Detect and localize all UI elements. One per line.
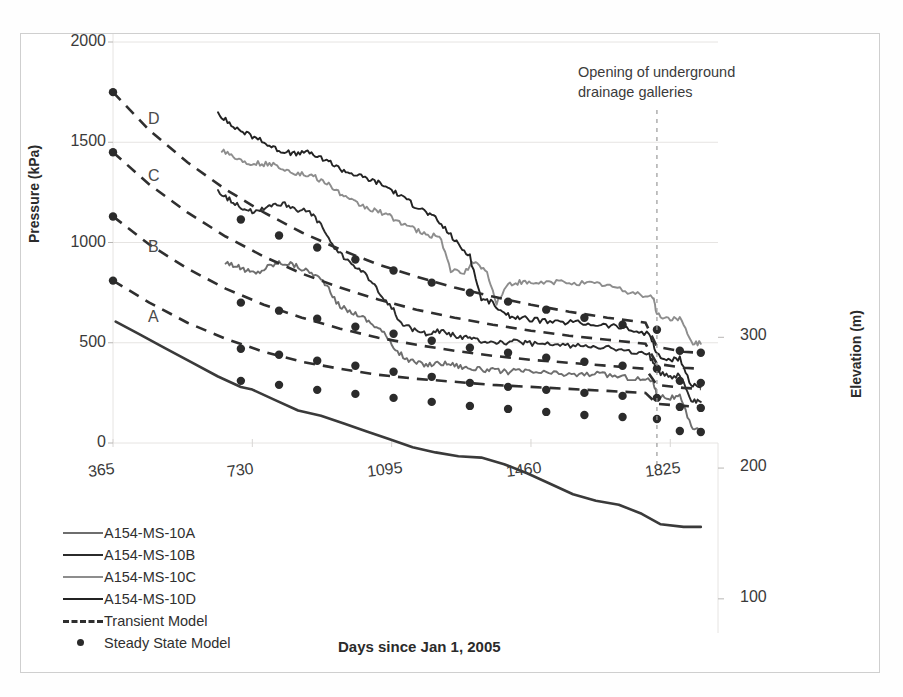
x-tick-label: 365 xyxy=(87,460,116,481)
figure-root: Pressure (kPa) Elevation (m) Days since … xyxy=(0,0,903,697)
legend-item[interactable]: A154-MS-10C xyxy=(62,566,312,588)
legend-swatch-solid-icon xyxy=(62,593,104,605)
y2-tick-label: 300 xyxy=(740,326,767,344)
event-annotation: Opening of underground drainage gallerie… xyxy=(578,62,735,102)
event-annotation-line1: Opening of underground xyxy=(578,62,735,82)
legend-swatch-dashed-icon xyxy=(62,615,104,627)
legend-swatch-solid-icon xyxy=(62,527,104,539)
legend-item[interactable]: Steady State Model xyxy=(62,632,312,654)
legend: A154-MS-10AA154-MS-10BA154-MS-10CA154-MS… xyxy=(62,522,312,654)
legend-item[interactable]: A154-MS-10B xyxy=(62,544,312,566)
y-tick-label: 500 xyxy=(52,333,106,351)
legend-item-label: Transient Model xyxy=(104,613,207,629)
legend-item[interactable]: A154-MS-10A xyxy=(62,522,312,544)
legend-swatch-solid-icon xyxy=(62,549,104,561)
legend-swatch-dot-icon xyxy=(62,637,104,649)
y2-tick-label: 100 xyxy=(740,588,767,606)
y-tick-label: 2000 xyxy=(52,32,106,50)
legend-item[interactable]: A154-MS-10D xyxy=(62,588,312,610)
y-tick-label: 0 xyxy=(52,433,106,451)
legend-item-label: A154-MS-10C xyxy=(104,569,196,585)
legend-swatch-solid-icon xyxy=(62,571,104,583)
x-axis-title: Days since Jan 1, 2005 xyxy=(338,638,501,655)
curve-label-c: C xyxy=(148,167,160,185)
curve-label-a: A xyxy=(148,308,159,326)
legend-item-label: A154-MS-10B xyxy=(104,547,195,563)
legend-item-label: Steady State Model xyxy=(104,635,231,651)
y2-tick-label: 200 xyxy=(740,457,767,475)
data-series xyxy=(109,88,705,527)
curve-label-b: B xyxy=(148,238,159,256)
y-tick-label: 1000 xyxy=(52,233,106,251)
y2-axis-title: Elevation (m) xyxy=(848,238,864,398)
x-tick-label: 730 xyxy=(226,460,255,481)
legend-item-label: A154-MS-10D xyxy=(104,591,196,607)
legend-item-label: A154-MS-10A xyxy=(104,525,195,541)
legend-item[interactable]: Transient Model xyxy=(62,610,312,632)
y-tick-label: 1500 xyxy=(52,132,106,150)
event-annotation-line2: drainage galleries xyxy=(578,82,735,102)
y-axis-title: Pressure (kPa) xyxy=(26,83,42,243)
curve-label-d: D xyxy=(148,110,160,128)
